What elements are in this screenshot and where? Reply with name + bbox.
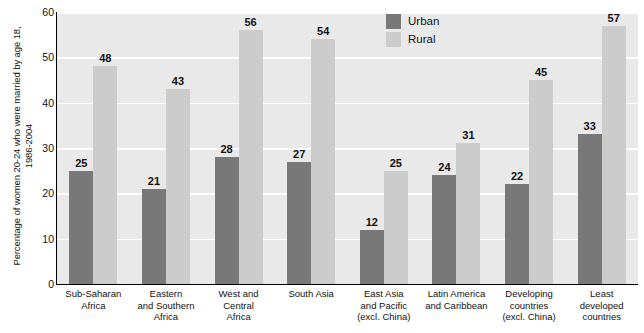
bar-value-label: 54 [317, 25, 329, 37]
legend: Urban Rural [386, 14, 439, 47]
bar-group: 2548 [69, 12, 117, 284]
x-axis-category-line: (excl. China) [348, 311, 421, 323]
bar-rural[interactable]: 56 [239, 30, 263, 284]
bar-rural[interactable]: 31 [456, 143, 480, 284]
bar-group: 1225 [360, 12, 408, 284]
bar-value-label: 31 [462, 129, 474, 141]
bar-group: 2856 [215, 12, 263, 284]
x-axis-category-label: East Asiaand Pacific(excl. China) [348, 288, 421, 323]
bar-group: 2245 [505, 12, 553, 284]
bar-group: 2431 [432, 12, 480, 284]
x-axis-category-line: Africa [57, 300, 130, 312]
y-axis-tick-label: 60 [28, 6, 54, 18]
bar-value-label: 27 [293, 148, 305, 160]
bar-urban[interactable]: 33 [578, 134, 602, 284]
x-axis-category-label: Latin Americaand Caribbean [420, 288, 493, 311]
x-axis-category-label: Easternand SouthernAfrica [130, 288, 203, 323]
y-axis-ticks: 0102030405060 [28, 12, 54, 284]
bar-urban[interactable]: 28 [215, 157, 239, 284]
bars-layer: 25482143285627541225243122453357 [57, 12, 638, 284]
bar-urban[interactable]: 21 [142, 189, 166, 284]
bar-value-label: 21 [148, 175, 160, 187]
x-axis-category-line: developed [565, 300, 638, 312]
x-axis-category-line: Latin America [420, 288, 493, 300]
x-axis-labels: Sub-SaharanAfricaEasternand SouthernAfri… [57, 288, 638, 333]
y-axis-tick-label: 20 [28, 187, 54, 199]
x-axis-category-line: East Asia [348, 288, 421, 300]
x-axis-category-line: Sub-Saharan [57, 288, 130, 300]
legend-item-rural[interactable]: Rural [386, 32, 439, 47]
x-axis-category-line: and Caribbean [420, 300, 493, 312]
bar-value-label: 24 [438, 161, 450, 173]
x-axis-category-line: Least [565, 288, 638, 300]
x-axis-category-line: Africa [130, 311, 203, 323]
bar-value-label: 45 [535, 66, 547, 78]
legend-swatch-rural-icon [386, 32, 401, 47]
x-axis-category-label: South Asia [275, 288, 348, 300]
x-axis-category-line: countries [493, 300, 566, 312]
x-axis-category-line: (excl. China) [493, 311, 566, 323]
x-axis-category-line: South Asia [275, 288, 348, 300]
bar-urban[interactable]: 27 [287, 162, 311, 284]
legend-item-urban[interactable]: Urban [386, 14, 439, 29]
bar-rural[interactable]: 57 [602, 26, 626, 284]
bar-value-label: 56 [244, 16, 256, 28]
bar-rural[interactable]: 25 [384, 171, 408, 284]
y-axis-tick-label: 40 [28, 97, 54, 109]
legend-label-urban: Urban [408, 14, 439, 29]
y-axis-tick-label: 0 [28, 278, 54, 290]
bar-value-label: 48 [99, 52, 111, 64]
x-axis-category-line: countries [565, 311, 638, 323]
x-axis-category-line: Africa [202, 311, 275, 323]
x-axis-category-line: Developing [493, 288, 566, 300]
x-axis-category-line: West and [202, 288, 275, 300]
bar-value-label: 33 [584, 120, 596, 132]
bar-urban[interactable]: 12 [360, 230, 384, 284]
bar-rural[interactable]: 45 [529, 80, 553, 284]
bar-value-label: 12 [366, 216, 378, 228]
bar-value-label: 28 [220, 143, 232, 155]
y-axis-tick-label: 50 [28, 51, 54, 63]
x-axis-category-line: Eastern [130, 288, 203, 300]
x-axis-category-label: Sub-SaharanAfrica [57, 288, 130, 311]
bar-value-label: 43 [172, 75, 184, 87]
bar-chart: Percentage of women 20-24 who were marri… [0, 0, 644, 333]
y-axis-tick-label: 10 [28, 233, 54, 245]
x-axis-category-line: and Southern [130, 300, 203, 312]
bar-rural[interactable]: 48 [93, 66, 117, 284]
bar-value-label: 25 [75, 157, 87, 169]
y-axis-tick-label: 30 [28, 142, 54, 154]
x-axis-category-line: Central [202, 300, 275, 312]
plot-area: 25482143285627541225243122453357 [57, 12, 638, 284]
bar-group: 2143 [142, 12, 190, 284]
bar-urban[interactable]: 25 [69, 171, 93, 284]
bar-rural[interactable]: 54 [311, 39, 335, 284]
legend-swatch-urban-icon [386, 14, 401, 29]
bar-urban[interactable]: 24 [432, 175, 456, 284]
x-axis-category-label: Developingcountries(excl. China) [493, 288, 566, 323]
bar-group: 3357 [578, 12, 626, 284]
x-axis-category-label: West andCentralAfrica [202, 288, 275, 323]
bar-value-label: 57 [608, 12, 620, 24]
y-axis-title-line-1: Percentage of women 20-24 who were marri… [11, 26, 23, 265]
x-axis-category-label: Leastdevelopedcountries [565, 288, 638, 323]
bar-value-label: 22 [511, 170, 523, 182]
bar-urban[interactable]: 22 [505, 184, 529, 284]
x-axis-category-line: and Pacific [348, 300, 421, 312]
bar-group: 2754 [287, 12, 335, 284]
bar-value-label: 25 [390, 157, 402, 169]
legend-label-rural: Rural [408, 32, 435, 47]
bar-rural[interactable]: 43 [166, 89, 190, 284]
